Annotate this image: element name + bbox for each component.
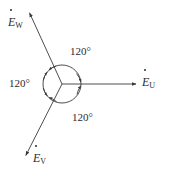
phasor-symbol-eu-text: E: [142, 75, 149, 89]
phasor-label-eu: EU: [142, 76, 155, 90]
dot-accent-icon: [144, 69, 146, 71]
phasor-symbol-ev: E: [33, 152, 40, 164]
angle-label-bottom: 120°: [72, 112, 93, 123]
phasor-symbol-ew: E: [8, 16, 15, 28]
angle-label-top: 120°: [70, 46, 91, 57]
angle-label-left: 120°: [9, 78, 30, 89]
phasor-symbol-ev-text: E: [33, 151, 40, 165]
phasor-diagram-figure: 120° 120° 120° EW EU EV: [0, 0, 169, 175]
phasor-subscript-ew: W: [15, 21, 23, 30]
dot-accent-icon: [35, 145, 37, 147]
arc-arrow-left-upper: [43, 88, 47, 96]
phasor-label-ew: EW: [8, 16, 23, 30]
arc-arrow-left-lower: [43, 72, 47, 80]
dot-accent-icon: [10, 9, 12, 11]
phasor-symbol-eu: E: [142, 76, 149, 88]
phasor-subscript-eu: U: [149, 81, 155, 90]
phasor-line-ev: [26, 84, 62, 156]
phasor-label-ev: EV: [33, 152, 46, 166]
phasor-subscript-ev: V: [40, 157, 46, 166]
phasor-symbol-ew-text: E: [8, 15, 15, 29]
